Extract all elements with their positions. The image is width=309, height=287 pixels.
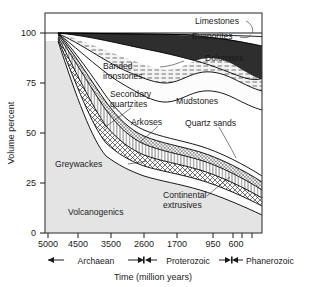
annotation-extrusives: extrusives [163,200,202,210]
annotation-banded: Banded [103,61,133,71]
annotation-limestones: Limestones [195,16,239,26]
y-tick-label-100: 100 [21,28,36,38]
x-tick-label-5000: 5000 [38,239,58,249]
era-label-archaean: Archaean [78,256,115,266]
annotation-quartz-sands: Quartz sands [185,118,236,128]
x-tick-label-600: 600 [228,239,243,249]
annotation-quartzites: quartzites [110,99,147,109]
y-tick-label-75: 75 [26,78,36,88]
annotation-evaporites: Evaporites [192,31,233,41]
x-tick-label-1700: 1700 [167,239,187,249]
annotation-dolomites: Dolomites [205,53,243,63]
annotation-secondary: Secondary [110,89,152,99]
y-tick-label-0: 0 [31,228,36,238]
annotation-mudstones: Mudstones [176,96,218,106]
x-tick-label-950: 950 [205,239,220,249]
annotation-greywackes: Greywackes [55,159,102,169]
arrow-proterozoic-left [145,257,151,263]
volume-percent-area-chart: 100 75 50 25 0 Volume percent 5000 4500 … [0,0,309,287]
annotation-ironstones: ironstones [103,71,143,81]
era-label-phanerozoic: Phanerozoic [246,256,294,266]
y-tick-label-25: 25 [26,178,36,188]
x-tick-label-4500: 4500 [68,239,88,249]
era-divider-2 [231,257,233,264]
x-axis [48,233,252,238]
y-axis-title: Volume percent [6,101,16,164]
arrow-phanerozoic-left [232,257,238,263]
x-axis-title: Time (million years) [114,272,192,282]
y-tick-label-50: 50 [26,128,36,138]
annotation-arkoses: Arkoses [131,117,162,127]
chart-container: 100 75 50 25 0 Volume percent 5000 4500 … [0,0,309,287]
x-tick-label-2600: 2600 [134,239,154,249]
arrow-archaean-left [48,257,54,263]
y-axis [40,33,45,233]
annotation-continental: Continental [163,190,207,200]
annotation-volcanogenics: Volcanogenics [68,207,123,217]
x-tick-label-3500: 3500 [101,239,121,249]
era-divider-1 [143,257,145,264]
era-label-proterozoic: Proterozoic [166,256,210,266]
arrow-proterozoic-right [225,257,231,263]
